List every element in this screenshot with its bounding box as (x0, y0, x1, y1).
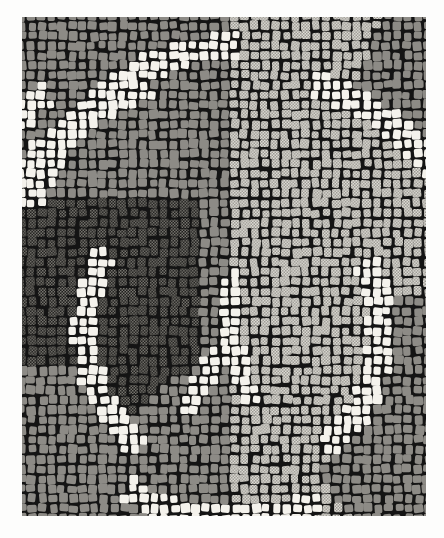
tessera (332, 178, 339, 188)
tessera (199, 209, 207, 218)
tessera (251, 415, 260, 424)
tessera (119, 317, 128, 325)
tessera (28, 140, 36, 150)
tessera (330, 130, 340, 140)
tessera (137, 266, 147, 277)
tessera (231, 118, 240, 128)
tessera (211, 328, 219, 337)
tessera (99, 208, 108, 216)
tessera (412, 188, 422, 197)
tessera (372, 187, 382, 197)
tessera (139, 406, 149, 415)
tessera (373, 404, 383, 415)
tessera (373, 32, 382, 40)
tessera (251, 374, 261, 385)
tessera (178, 327, 188, 337)
tessera (97, 150, 105, 159)
tessera (128, 79, 138, 89)
tessera (343, 356, 352, 365)
tessera (138, 169, 148, 179)
tessera (111, 504, 119, 513)
tessera (48, 22, 57, 30)
tessera (171, 424, 180, 433)
tessera (36, 309, 44, 316)
tessera (189, 288, 197, 296)
tessera (343, 81, 352, 89)
tessera (38, 347, 47, 355)
tessera (158, 178, 166, 188)
tessera (414, 298, 423, 306)
tessera (271, 209, 281, 217)
tessera (189, 494, 199, 504)
tessera (67, 287, 76, 296)
tessera (140, 435, 147, 445)
tessera (343, 267, 352, 275)
tessera (28, 346, 38, 356)
tessera (301, 387, 310, 395)
tessera (260, 140, 269, 147)
tessera (331, 120, 341, 129)
tessera (139, 92, 147, 100)
tessera (381, 463, 391, 474)
tessera (333, 465, 341, 473)
tessera (403, 425, 413, 434)
tessera (342, 130, 351, 138)
tessera (139, 456, 148, 465)
tessera (128, 120, 136, 128)
tessera (232, 209, 240, 218)
tessera (352, 119, 362, 128)
tessera (148, 121, 158, 131)
tessera (87, 375, 97, 385)
tessera (78, 278, 88, 287)
tessera (181, 218, 190, 228)
tessera (299, 138, 309, 149)
tessera (108, 119, 117, 128)
tessera (343, 52, 352, 60)
tessera (383, 238, 392, 246)
tessera (363, 435, 372, 444)
tessera (57, 287, 67, 296)
tessera (411, 100, 421, 109)
tessera (252, 346, 260, 355)
tessera (332, 61, 341, 71)
tessera (300, 336, 310, 346)
tessera (312, 386, 321, 393)
tessera (57, 434, 66, 443)
tessera (249, 101, 258, 111)
tessera (47, 376, 56, 384)
tessera (69, 337, 78, 344)
tessera (313, 396, 323, 406)
tessera (382, 141, 393, 150)
tessera (199, 140, 209, 149)
tessera (157, 41, 167, 49)
tessera (192, 318, 199, 326)
tessera (261, 121, 269, 129)
tessera (179, 456, 187, 464)
tessera (108, 179, 117, 189)
tessera (289, 465, 300, 476)
tessera (138, 51, 147, 61)
tessera (77, 268, 85, 277)
tessera (415, 365, 422, 374)
tessera (27, 238, 37, 246)
tessera (262, 414, 272, 424)
tessera (28, 397, 36, 405)
tessera (412, 41, 422, 51)
tessera (48, 71, 56, 79)
tessera (139, 424, 149, 434)
tessera (202, 60, 210, 70)
tessera (250, 130, 260, 140)
tessera (374, 158, 383, 168)
tessera (263, 356, 271, 366)
tessera (220, 158, 229, 168)
tessera (70, 395, 78, 404)
tessera (281, 180, 291, 189)
tessera (322, 405, 329, 415)
tessera (192, 366, 201, 376)
tessera (271, 227, 280, 237)
tessera (36, 158, 46, 168)
tessera (67, 71, 77, 81)
tessera (97, 81, 106, 88)
tessera (26, 406, 36, 416)
tessera (160, 238, 169, 248)
